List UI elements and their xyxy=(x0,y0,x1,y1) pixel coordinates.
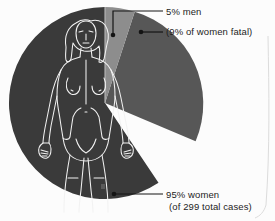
scan-edge-artifact xyxy=(255,36,269,218)
callout-label-women-line2: (of 299 total cases) xyxy=(166,201,252,213)
leader-dot-men xyxy=(111,33,116,38)
callout-label-women-line1: 95% women xyxy=(166,189,219,200)
leader-dot-women xyxy=(112,192,117,197)
slice-tick-mark xyxy=(101,184,105,189)
leader-dot-fatal xyxy=(139,30,144,35)
callout-label-fatal: (9% of women fatal) xyxy=(166,26,252,38)
pie-chart-figure: 5% men (9% of women fatal) 95% women (of… xyxy=(0,0,275,221)
callout-label-men: 5% men xyxy=(166,6,201,18)
callout-label-women: 95% women (of 299 total cases) xyxy=(166,189,252,212)
